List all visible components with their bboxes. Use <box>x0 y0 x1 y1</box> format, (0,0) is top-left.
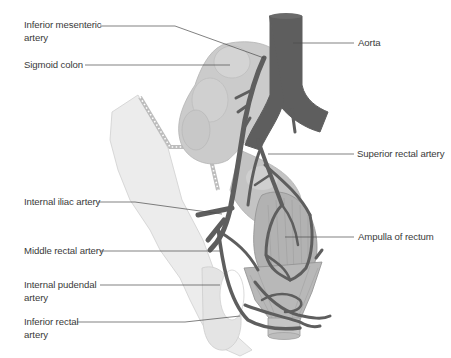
label-inferior-rectal-artery: Inferior rectal artery <box>24 316 78 341</box>
anatomy-figure: Inferior mesenteric artery Sigmoid colon… <box>0 0 451 358</box>
label-internal-pudendal-artery: Internal pudendal artery <box>24 279 96 304</box>
label-middle-rectal-artery: Middle rectal artery <box>24 245 104 258</box>
label-sigmoid-colon: Sigmoid colon <box>24 59 83 72</box>
label-inferior-mesenteric-artery: Inferior mesenteric artery <box>24 19 102 44</box>
label-aorta: Aorta <box>358 37 380 50</box>
label-superior-rectal-artery: Superior rectal artery <box>357 148 444 161</box>
label-internal-iliac-artery: Internal iliac artery <box>24 196 100 209</box>
rectum-arterial-supply-illustration <box>0 0 451 358</box>
label-ampulla-of-rectum: Ampulla of rectum <box>358 231 434 244</box>
